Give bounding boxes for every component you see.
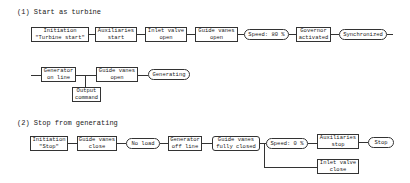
step-line2: on line bbox=[42, 75, 75, 82]
step-output-command: Output command bbox=[72, 87, 101, 102]
connector bbox=[85, 75, 86, 87]
connector bbox=[31, 75, 41, 76]
step-line2: activated bbox=[297, 35, 330, 42]
connector bbox=[187, 34, 195, 35]
step-line2: command bbox=[73, 95, 100, 102]
step-initiation-stop: Initiation "Stop" bbox=[30, 136, 68, 151]
step-line2: close bbox=[318, 167, 358, 174]
step-governor-activated: Governor activated bbox=[296, 27, 331, 42]
step-inlet-valve-close: Inlet valve close bbox=[317, 159, 359, 174]
connector bbox=[160, 143, 168, 144]
step-line2: stop bbox=[318, 142, 358, 149]
step-generator-off-line: Generator off line bbox=[168, 136, 202, 151]
step-line2: "Stop" bbox=[31, 144, 67, 151]
connector bbox=[138, 75, 148, 76]
connector bbox=[279, 167, 317, 168]
step-guide-vanes-fully-closed: Guide vanes fully closed bbox=[212, 136, 260, 151]
step-auxiliaries-stop: Auxiliaries stop bbox=[317, 134, 359, 149]
condition-generating: Generating bbox=[148, 69, 190, 80]
connector bbox=[264, 167, 279, 168]
condition-stop: Stop bbox=[368, 137, 394, 148]
step-line2: open bbox=[97, 75, 137, 82]
section-2-title: (2) Stop from generating bbox=[17, 119, 118, 127]
step-line2: fully closed bbox=[213, 144, 259, 151]
condition-no-load: No load bbox=[126, 138, 160, 149]
step-line2: off line bbox=[169, 144, 201, 151]
section-1-title: (1) Start as turbine bbox=[17, 8, 101, 16]
connector bbox=[117, 143, 126, 144]
condition-speed-80: Speed: 80 % bbox=[244, 29, 289, 40]
step-initiation-turbine-start: Initiation "Turbine start" bbox=[31, 27, 89, 42]
step-line2: open bbox=[196, 35, 237, 42]
condition-speed-0: Speed: 0 % bbox=[266, 138, 308, 149]
connector bbox=[331, 34, 339, 35]
step-auxiliaries-start: Auxiliaries start bbox=[95, 27, 137, 42]
condition-synchronized: Synchronized bbox=[339, 29, 387, 40]
connector bbox=[264, 143, 265, 167]
connector bbox=[76, 75, 96, 76]
step-inlet-valve-open: Inlet valve open bbox=[145, 27, 187, 42]
connector bbox=[202, 143, 212, 144]
step-generator-on-line: Generator on line bbox=[41, 67, 76, 82]
connector bbox=[359, 142, 368, 143]
step-guide-vanes-open: Guide vanes open bbox=[195, 27, 238, 42]
connector bbox=[387, 34, 393, 35]
step-guide-vanes-open-2: Guide vanes open bbox=[96, 67, 138, 82]
step-line2: start bbox=[96, 35, 136, 42]
connector bbox=[137, 34, 145, 35]
step-line2: open bbox=[146, 35, 186, 42]
connector bbox=[289, 34, 296, 35]
step-line2: "Turbine start" bbox=[32, 35, 88, 42]
connector bbox=[68, 143, 77, 144]
step-guide-vanes-close: Guide vanes close bbox=[77, 136, 117, 151]
connector bbox=[308, 143, 317, 144]
step-line2: close bbox=[78, 144, 116, 151]
